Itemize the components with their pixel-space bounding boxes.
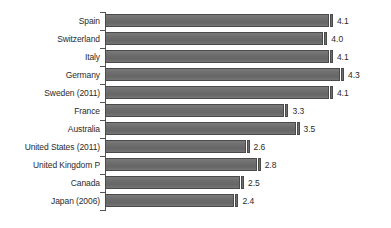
bar-body <box>105 140 246 153</box>
bar-row: United States (2011)2.6 <box>0 138 391 156</box>
bar-body <box>105 14 329 27</box>
category-label: Italy <box>0 53 105 62</box>
bar-track: 4.1 <box>105 84 391 102</box>
bar-body <box>105 176 240 189</box>
bar-track: 2.8 <box>105 156 391 174</box>
bar-end-cap <box>235 194 238 207</box>
bar <box>105 176 244 189</box>
bar <box>105 32 327 45</box>
bar-row: Switzerland4.0 <box>0 30 391 48</box>
category-label: France <box>0 107 105 116</box>
category-label: Japan (2006) <box>0 197 105 206</box>
bar-row: Italy4.1 <box>0 48 391 66</box>
bar <box>105 68 344 81</box>
category-label: Germany <box>0 71 105 80</box>
bar-end-cap <box>330 50 333 63</box>
bar-end-cap <box>285 104 288 117</box>
bar-rows: Spain4.1Switzerland4.0Italy4.1Germany4.3… <box>0 12 391 210</box>
bar-end-cap <box>330 86 333 99</box>
bar <box>105 14 333 27</box>
bar-end-cap <box>258 158 261 171</box>
value-label: 2.6 <box>254 143 266 152</box>
bar-row: Canada2.5 <box>0 174 391 192</box>
bar-track: 4.1 <box>105 12 391 30</box>
bar-end-cap <box>341 68 344 81</box>
bar-track: 4.1 <box>105 48 391 66</box>
bar-body <box>105 158 257 171</box>
bar-track: 3.5 <box>105 120 391 138</box>
bar-end-cap <box>330 14 333 27</box>
bar-body <box>105 86 329 99</box>
horizontal-bar-chart: Spain4.1Switzerland4.0Italy4.1Germany4.3… <box>0 0 391 228</box>
bar-track: 2.6 <box>105 138 391 156</box>
bar <box>105 194 238 207</box>
bar-body <box>105 32 323 45</box>
bar <box>105 104 288 117</box>
bar-end-cap <box>324 32 327 45</box>
value-label: 4.1 <box>337 17 349 26</box>
bar-body <box>105 122 296 135</box>
bar <box>105 122 300 135</box>
value-label: 4.1 <box>337 89 349 98</box>
bar-end-cap <box>241 176 244 189</box>
bar-row: Spain4.1 <box>0 12 391 30</box>
category-label: United Kingdom P <box>0 161 105 170</box>
category-label: Canada <box>0 179 105 188</box>
category-label: Australia <box>0 125 105 134</box>
bar-body <box>105 104 284 117</box>
bar-row: Sweden (2011)4.1 <box>0 84 391 102</box>
bar-body <box>105 50 329 63</box>
value-label: 2.8 <box>265 161 277 170</box>
bar <box>105 158 261 171</box>
bar-row: Japan (2006)2.4 <box>0 192 391 210</box>
category-label: United States (2011) <box>0 143 105 152</box>
value-label: 4.3 <box>348 71 360 80</box>
bar-row: Germany4.3 <box>0 66 391 84</box>
value-label: 3.5 <box>304 125 316 134</box>
bar-row: Australia3.5 <box>0 120 391 138</box>
bar-track: 2.4 <box>105 192 391 210</box>
category-label: Spain <box>0 17 105 26</box>
bar <box>105 50 333 63</box>
axis-tick <box>100 210 106 211</box>
bar-row: France3.3 <box>0 102 391 120</box>
bar-end-cap <box>297 122 300 135</box>
bar-track: 3.3 <box>105 102 391 120</box>
bar-track: 2.5 <box>105 174 391 192</box>
value-label: 2.4 <box>242 197 254 206</box>
bar-body <box>105 194 234 207</box>
value-label: 4.0 <box>331 35 343 44</box>
value-label: 3.3 <box>292 107 304 116</box>
value-label: 2.5 <box>248 179 260 188</box>
category-label: Switzerland <box>0 35 105 44</box>
bar-track: 4.3 <box>105 66 391 84</box>
bar-track: 4.0 <box>105 30 391 48</box>
bar-row: United Kingdom P2.8 <box>0 156 391 174</box>
category-label: Sweden (2011) <box>0 89 105 98</box>
bar-end-cap <box>247 140 250 153</box>
bar <box>105 140 250 153</box>
value-label: 4.1 <box>337 53 349 62</box>
bar <box>105 86 333 99</box>
bar-body <box>105 68 340 81</box>
